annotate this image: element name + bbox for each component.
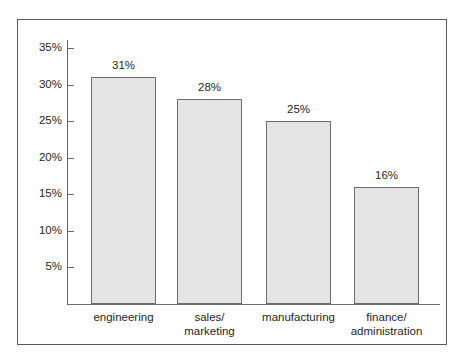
bar-value-label: 16% bbox=[344, 169, 429, 181]
x-axis-category-label: finance/administration bbox=[329, 311, 444, 338]
y-axis-tick-label: 10% bbox=[14, 225, 62, 237]
bar bbox=[266, 121, 331, 304]
y-axis-tick-label-text: 15% bbox=[18, 188, 62, 200]
bar-value-label: 25% bbox=[256, 103, 341, 115]
y-axis-tick-label-text: 20% bbox=[18, 152, 62, 164]
y-axis-tick-label: 25% bbox=[14, 115, 62, 127]
chart-figure: 5%10%15%20%25%30%35% 31%28%25%16% engine… bbox=[0, 0, 461, 363]
y-axis-tick-label: 20% bbox=[14, 152, 62, 164]
y-axis-tick-mark bbox=[67, 231, 74, 232]
bar bbox=[354, 187, 419, 304]
y-axis-tick-mark bbox=[67, 194, 74, 195]
bar bbox=[177, 99, 242, 304]
bar bbox=[91, 77, 156, 304]
y-axis-tick-mark bbox=[67, 48, 74, 49]
y-axis-tick-label-text: 30% bbox=[18, 79, 62, 91]
bar-value-label: 28% bbox=[167, 81, 252, 93]
x-axis-category-label-line: administration bbox=[329, 325, 444, 339]
y-axis-tick-mark bbox=[67, 158, 74, 159]
y-axis-line bbox=[67, 40, 68, 305]
y-axis-tick-mark bbox=[67, 121, 74, 122]
y-axis-tick-mark bbox=[67, 267, 74, 268]
y-axis-tick-mark bbox=[67, 85, 74, 86]
x-axis-line bbox=[67, 304, 440, 305]
bar-value-label: 31% bbox=[81, 59, 166, 71]
y-axis-tick-label: 15% bbox=[14, 188, 62, 200]
y-axis-tick-label: 35% bbox=[14, 42, 62, 54]
y-axis-tick-label-text: 5% bbox=[18, 261, 62, 273]
x-axis-category-label-line: marketing bbox=[152, 325, 267, 339]
x-axis-category-label-line: finance/ bbox=[329, 311, 444, 325]
y-axis-tick-label-text: 35% bbox=[18, 42, 62, 54]
y-axis-tick-label: 30% bbox=[14, 79, 62, 91]
y-axis-tick-label-text: 25% bbox=[18, 115, 62, 127]
y-axis-tick-label: 5% bbox=[14, 261, 62, 273]
y-axis-tick-label-text: 10% bbox=[18, 225, 62, 237]
